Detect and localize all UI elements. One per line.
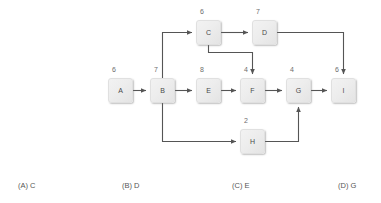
option-c[interactable]: (C) E	[232, 182, 250, 190]
node-c: C	[196, 20, 221, 45]
node-d: D	[252, 20, 277, 45]
option-a[interactable]: (A) C	[18, 182, 36, 190]
node-label-d: D	[262, 29, 267, 36]
node-weight-b: 7	[154, 66, 158, 73]
node-label-h: H	[250, 138, 255, 145]
node-label-i: I	[343, 87, 345, 94]
node-weight-d: 7	[256, 8, 260, 15]
edge-b-to-c	[163, 33, 193, 79]
option-b[interactable]: (B) D	[122, 182, 140, 190]
node-label-a: A	[118, 87, 123, 94]
node-weight-f: 4	[244, 66, 248, 73]
node-h: H	[240, 129, 265, 154]
node-label-b: B	[160, 87, 165, 94]
node-label-f: F	[250, 87, 254, 94]
option-d[interactable]: (D) G	[338, 182, 356, 190]
node-i: I	[331, 78, 356, 103]
network-diagram-edges	[0, 0, 381, 203]
edge-b-to-h	[163, 103, 237, 142]
node-a: A	[108, 78, 133, 103]
node-label-c: C	[206, 29, 211, 36]
node-g: G	[286, 78, 311, 103]
edge-h-to-g	[265, 107, 299, 142]
node-weight-e: 8	[200, 66, 204, 73]
edge-d-to-i	[277, 33, 344, 75]
node-e: E	[196, 78, 221, 103]
node-weight-c: 6	[200, 8, 204, 15]
node-label-g: G	[296, 87, 301, 94]
question-canvas: ABCDEFGHI 676784426 (A) C(B) D(C) E(D) G	[0, 0, 381, 203]
node-label-e: E	[206, 87, 211, 94]
node-f: F	[240, 78, 265, 103]
node-b: B	[150, 78, 175, 103]
node-weight-g: 4	[290, 66, 294, 73]
node-weight-i: 6	[335, 66, 339, 73]
node-weight-a: 6	[112, 66, 116, 73]
node-weight-h: 2	[244, 117, 248, 124]
